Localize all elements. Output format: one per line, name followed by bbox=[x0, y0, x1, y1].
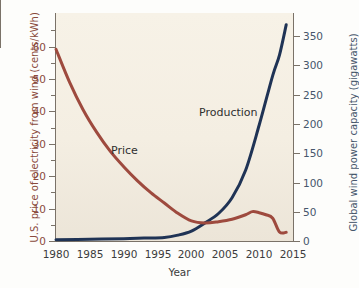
right-ticklabel-50: 50 bbox=[303, 207, 316, 218]
right-axis-title: Global wind power capacity (gigawatts) bbox=[348, 23, 359, 243]
right-tick-200 bbox=[293, 124, 300, 125]
right-ticklabel-250: 250 bbox=[303, 90, 323, 101]
right-tick-350 bbox=[293, 36, 300, 37]
right-ticklabel-0: 0 bbox=[303, 236, 310, 247]
left-minor-tick-15 bbox=[51, 192, 56, 193]
series-annotation-price: Price bbox=[111, 144, 138, 157]
left-ticklabel-0: 0 bbox=[39, 236, 46, 247]
left-minor-tick-65 bbox=[51, 30, 56, 31]
left-tick-60 bbox=[49, 47, 56, 48]
x-ticklabel-2015: 2015 bbox=[273, 249, 313, 260]
left-tick-20 bbox=[49, 176, 56, 177]
left-axis-title: U.S. price of electricity from wind (cen… bbox=[29, 23, 40, 243]
series-annotation-production: Production bbox=[199, 106, 258, 119]
left-tick-40 bbox=[49, 111, 56, 112]
right-tick-50 bbox=[293, 212, 300, 213]
left-tick-30 bbox=[49, 144, 56, 145]
right-tick-300 bbox=[293, 65, 300, 66]
right-ticklabel-150: 150 bbox=[303, 148, 323, 159]
left-tick-10 bbox=[49, 209, 56, 210]
chart-figure: 0 10 20 30 40 50 60 0 50 100 150 200 250… bbox=[0, 0, 359, 288]
bottom-axis-line bbox=[55, 241, 294, 242]
right-tick-150 bbox=[293, 153, 300, 154]
left-minor-tick-55 bbox=[51, 63, 56, 64]
left-minor-tick-25 bbox=[51, 160, 56, 161]
x-tick-2015 bbox=[0, 42, 1, 48]
right-tick-250 bbox=[293, 95, 300, 96]
right-ticklabel-300: 300 bbox=[303, 60, 323, 71]
plot-background bbox=[56, 13, 293, 241]
left-tick-50 bbox=[49, 79, 56, 80]
left-minor-tick-5 bbox=[51, 225, 56, 226]
left-minor-tick-35 bbox=[51, 128, 56, 129]
right-tick-100 bbox=[293, 183, 300, 184]
right-tick-0 bbox=[293, 241, 300, 242]
left-tick-0 bbox=[49, 241, 56, 242]
left-minor-tick-45 bbox=[51, 95, 56, 96]
right-ticklabel-100: 100 bbox=[303, 178, 323, 189]
right-axis-line bbox=[293, 13, 294, 242]
right-ticklabel-200: 200 bbox=[303, 119, 323, 130]
plot-area bbox=[56, 13, 293, 241]
x-axis-title: Year bbox=[0, 266, 359, 278]
right-ticklabel-350: 350 bbox=[303, 31, 323, 42]
